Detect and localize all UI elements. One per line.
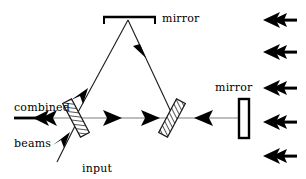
incoming-arrow-5 xyxy=(263,148,297,164)
incoming-arrow-3 xyxy=(263,80,297,96)
incoming-arrow-2 xyxy=(263,44,297,60)
incoming-arrow-4 xyxy=(263,114,297,130)
label-combined-beams: combined beams xyxy=(14,78,70,174)
label-combined-beams-line2: beams xyxy=(14,138,70,150)
label-combined-beams-line1: combined xyxy=(14,102,70,114)
beam-arrow-right-leg xyxy=(133,35,146,58)
right-mirror xyxy=(239,99,249,138)
label-input-beam: input beam xyxy=(82,139,113,179)
beam-path-upper-triangle xyxy=(77,20,172,114)
label-mirror-top: mirror xyxy=(162,13,200,25)
label-input-beam-line1: input xyxy=(82,163,113,175)
optics-diagram: mirror mirror combined beams input beam xyxy=(0,0,306,179)
incoming-arrow-1 xyxy=(263,12,297,28)
label-mirror-right: mirror xyxy=(215,82,253,94)
